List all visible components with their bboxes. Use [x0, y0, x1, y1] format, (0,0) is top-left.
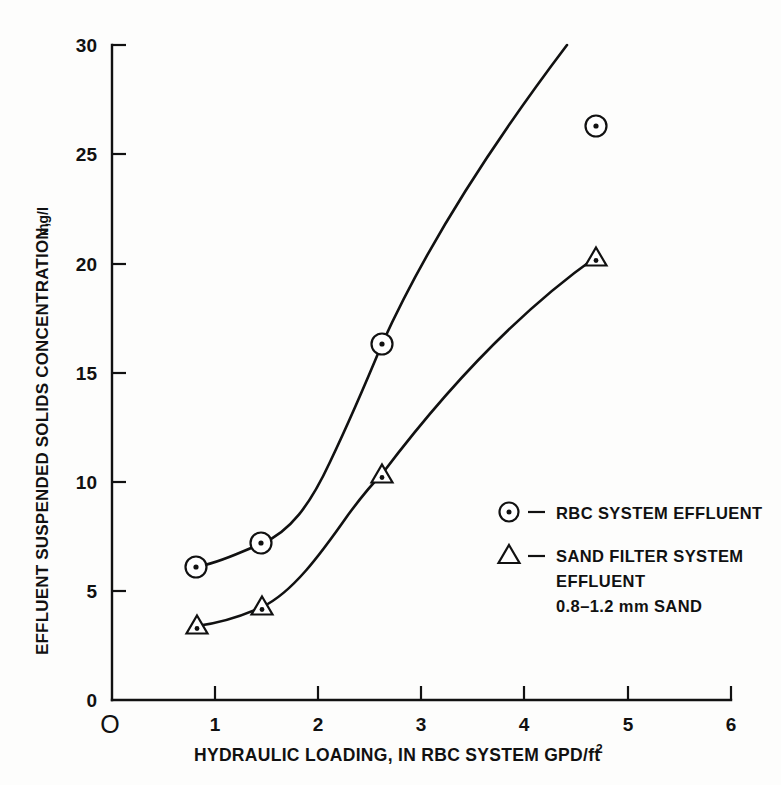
y-tick-label-20: 20	[76, 254, 97, 275]
x-tick-label-3: 3	[416, 714, 427, 735]
legend-triangle-marker-icon	[499, 545, 520, 563]
y-axis-title-unit: mg/l	[35, 207, 51, 236]
x-axis-title-group: HYDRAULIC LOADING, IN RBC SYSTEM GPD/ft …	[194, 742, 603, 765]
chart-figure: 0 5 10 15 20 25 30 O 1 2 3 4 5 6 HYDRA	[0, 0, 781, 785]
x-axis-title-superscript: 2	[596, 742, 603, 756]
legend-label-sand-line1: SAND FILTER SYSTEM	[556, 547, 743, 565]
x-tick-label-2: 2	[313, 714, 324, 735]
data-point	[586, 248, 607, 266]
data-point	[186, 557, 207, 578]
data-point	[372, 465, 393, 483]
x-tick-label-4: 4	[519, 714, 530, 735]
y-tick-label-10: 10	[76, 472, 97, 493]
legend-item-rbc-system-effluent: RBC SYSTEM EFFLUENT	[500, 503, 763, 523]
y-tick-label-0: 0	[86, 690, 97, 711]
x-tick-label-1: 1	[210, 714, 221, 735]
legend-item-sand-filter-system-effluent: SAND FILTER SYSTEM EFFLUENT 0.8–1.2 mm S…	[499, 545, 744, 615]
data-point	[586, 116, 607, 137]
data-point	[251, 533, 272, 554]
y-tick-label-15: 15	[76, 363, 98, 384]
y-tick-label-5: 5	[86, 581, 97, 602]
data-point	[372, 334, 393, 355]
series-sand-filter-system-effluent	[187, 248, 607, 634]
y-tick-label-25: 25	[76, 144, 98, 165]
chart-legend: RBC SYSTEM EFFLUENT SAND FILTER SYSTEM E…	[499, 503, 763, 616]
x-tick-label-5: 5	[623, 714, 634, 735]
effluent-suspended-solids-chart: 0 5 10 15 20 25 30 O 1 2 3 4 5 6 HYDRA	[0, 0, 781, 785]
series-rbc-curve	[196, 45, 567, 567]
legend-label-sand-line3: 0.8–1.2 mm SAND	[556, 597, 702, 615]
x-axis-title: HYDRAULIC LOADING, IN RBC SYSTEM GPD/ft	[194, 745, 600, 765]
y-axis-title-group: EFFLUENT SUSPENDED SOLIDS CONCENTRATION,…	[33, 207, 52, 655]
x-tick-label-6: 6	[726, 714, 737, 735]
y-tick-label-30: 30	[76, 35, 97, 56]
legend-label-rbc: RBC SYSTEM EFFLUENT	[556, 504, 763, 522]
y-ticks-group	[112, 154, 126, 591]
legend-label-sand-line2: EFFLUENT	[556, 572, 645, 590]
x-tick-labels-group: O 1 2 3 4 5 6	[100, 710, 736, 738]
y-axis-title: EFFLUENT SUSPENDED SOLIDS CONCENTRATION,	[33, 222, 52, 655]
x-tick-label-0: O	[100, 710, 119, 738]
data-point	[252, 597, 273, 615]
series-rbc-system-effluent	[186, 45, 607, 578]
y-tick-labels-group: 0 5 10 15 20 25 30	[76, 35, 98, 711]
x-ticks-group	[215, 686, 628, 700]
